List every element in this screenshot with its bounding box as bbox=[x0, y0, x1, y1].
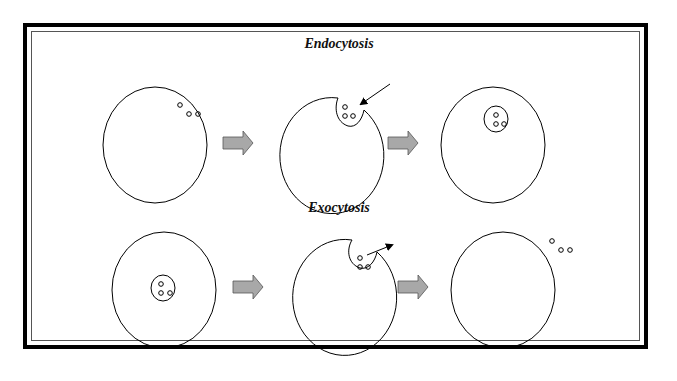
inward-arrow-icon bbox=[361, 84, 390, 104]
particles-outside bbox=[178, 103, 201, 117]
endo-cell-3 bbox=[441, 87, 545, 203]
outward-arrow-icon bbox=[367, 245, 392, 255]
process-arrow-icon bbox=[223, 131, 253, 155]
exo-cell-3 bbox=[451, 232, 572, 348]
exo-cell-2 bbox=[293, 239, 397, 355]
vesicle bbox=[151, 275, 175, 301]
process-arrow-icon bbox=[388, 131, 418, 155]
endo-cell-1 bbox=[103, 87, 207, 203]
endo-cell-2 bbox=[280, 84, 390, 214]
exo-cell-1 bbox=[112, 232, 216, 348]
vesicle bbox=[484, 106, 508, 132]
process-arrow-icon bbox=[398, 275, 428, 299]
particles-outside bbox=[550, 239, 573, 253]
process-arrow-icon bbox=[233, 275, 263, 299]
